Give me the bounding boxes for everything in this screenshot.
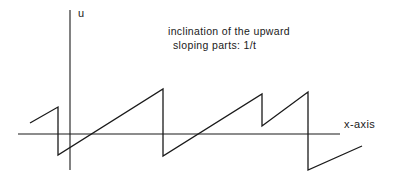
y-axis-label: u: [78, 7, 84, 19]
slope-annotation: inclination of the upwardsloping parts: …: [168, 25, 290, 52]
sawtooth-waveform-figure: u x-axis inclination of the upwardslopin…: [0, 0, 395, 187]
x-axis-label: x-axis: [344, 118, 375, 130]
sawtooth-waveform-trace: [30, 89, 362, 170]
slope-annotation-line-1: inclination of the upward: [168, 25, 290, 37]
slope-annotation-line-2: sloping parts: 1/t: [168, 39, 290, 53]
